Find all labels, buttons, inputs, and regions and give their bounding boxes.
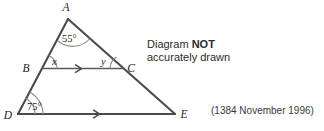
- vertex-label-B: B: [22, 62, 29, 74]
- note-line-2: accurately drawn: [147, 51, 230, 64]
- vertex-label-D: D: [3, 109, 13, 121]
- source-reference: (1384 November 1996): [211, 105, 314, 116]
- note-emphasis: NOT: [192, 38, 215, 50]
- diagram-page: A B C D E 55° x y 75° Diagram NOT accura…: [0, 0, 324, 131]
- note-line-1: Diagram NOT: [147, 38, 230, 51]
- note-prefix: Diagram: [147, 38, 192, 50]
- angle-label-C: y: [100, 56, 106, 67]
- angle-label-A: 55°: [62, 33, 77, 44]
- segment-A-to-E: [68, 19, 175, 114]
- not-accurately-drawn-note: Diagram NOT accurately drawn: [147, 38, 230, 63]
- vertex-label-C: C: [127, 62, 135, 74]
- vertex-label-E: E: [179, 108, 187, 120]
- angle-label-D: 75°: [27, 101, 42, 112]
- angle-label-B: x: [51, 56, 57, 67]
- vertex-label-A: A: [61, 1, 70, 13]
